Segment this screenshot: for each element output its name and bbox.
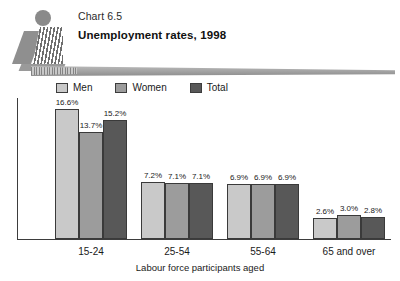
bar-value-total-55-64: 6.9% xyxy=(278,173,296,182)
bar-rect-women xyxy=(165,183,189,239)
chart-legend: Men Women Total xyxy=(56,82,228,93)
logo-head-shape xyxy=(35,10,51,26)
title-block: Chart 6.5 Unemployment rates, 1998 xyxy=(78,10,226,41)
legend-label-women: Women xyxy=(132,82,166,93)
legend-label-men: Men xyxy=(73,82,92,93)
bar-group-15-24: 16.6% 13.7% 15.2% xyxy=(55,98,127,239)
legend-item-women: Women xyxy=(115,82,166,93)
chart-title: Unemployment rates, 1998 xyxy=(78,29,226,41)
bar-rect-total xyxy=(189,183,213,239)
statistics-figure-logo-icon xyxy=(18,10,66,72)
bar-women-25-54[interactable]: 7.1% xyxy=(165,98,189,239)
bar-value-men-55-64: 6.9% xyxy=(230,173,248,182)
legend-swatch-women xyxy=(115,83,127,93)
bar-rect-total xyxy=(103,120,127,239)
bar-value-women-55-64: 6.9% xyxy=(254,173,272,182)
bar-group-55-64: 6.9% 6.9% 6.9% xyxy=(227,98,299,239)
legend-swatch-men xyxy=(56,83,68,93)
chart-number: Chart 6.5 xyxy=(78,10,226,22)
x-axis-label-55-64: 55-64 xyxy=(250,246,276,257)
bar-rect-women xyxy=(79,132,103,239)
bar-rect-men xyxy=(141,182,165,239)
bar-women-15-24[interactable]: 13.7% xyxy=(79,98,103,239)
bar-value-women-65-and-over: 3.0% xyxy=(340,204,358,213)
bar-women-65-and-over[interactable]: 3.0% xyxy=(337,98,361,239)
bar-value-men-15-24: 16.6% xyxy=(56,98,79,107)
bar-rect-total xyxy=(275,184,299,239)
bar-value-total-25-54: 7.1% xyxy=(192,172,210,181)
bar-total-15-24[interactable]: 15.2% xyxy=(103,98,127,239)
x-axis-caption: Labour force participants aged xyxy=(136,262,264,273)
legend-swatch-total xyxy=(190,83,202,93)
bar-total-55-64[interactable]: 6.9% xyxy=(275,98,299,239)
bar-value-women-25-54: 7.1% xyxy=(168,172,186,181)
bar-rect-women xyxy=(337,215,361,239)
bar-men-55-64[interactable]: 6.9% xyxy=(227,98,251,239)
bar-rect-men xyxy=(55,109,79,239)
banner-slab xyxy=(31,66,395,76)
bar-women-55-64[interactable]: 6.9% xyxy=(251,98,275,239)
chart-header: Chart 6.5 Unemployment rates, 1998 xyxy=(0,0,400,78)
x-axis-label-25-54: 25-54 xyxy=(164,246,190,257)
banner-hatch-accent xyxy=(31,67,77,75)
bar-chart-plot-area: 16.6% 13.7% 15.2% 7.2% 7.1% 7.1% 6.9% xyxy=(17,98,391,240)
bar-group-25-54: 7.2% 7.1% 7.1% xyxy=(141,98,213,239)
bar-value-total-65-and-over: 2.8% xyxy=(364,206,382,215)
bar-men-25-54[interactable]: 7.2% xyxy=(141,98,165,239)
bar-value-men-65-and-over: 2.6% xyxy=(316,207,334,216)
bar-value-women-15-24: 13.7% xyxy=(80,121,103,130)
bar-rect-men xyxy=(227,184,251,239)
bar-rect-women xyxy=(251,184,275,239)
bar-value-total-15-24: 15.2% xyxy=(104,109,127,118)
bar-group-65-and-over: 2.6% 3.0% 2.8% xyxy=(313,98,385,239)
logo-body-shape xyxy=(18,27,66,65)
bar-total-65-and-over[interactable]: 2.8% xyxy=(361,98,385,239)
x-axis-label-15-24: 15-24 xyxy=(78,246,104,257)
bar-men-65-and-over[interactable]: 2.6% xyxy=(313,98,337,239)
bar-rect-total xyxy=(361,217,385,239)
x-axis-label-65-and-over: 65 and over xyxy=(323,246,376,257)
header-banner-rule xyxy=(31,66,395,76)
legend-item-men: Men xyxy=(56,82,92,93)
legend-item-total: Total xyxy=(190,82,228,93)
bar-value-men-25-54: 7.2% xyxy=(144,171,162,180)
bar-men-15-24[interactable]: 16.6% xyxy=(55,98,79,239)
x-axis-line xyxy=(17,239,391,240)
bar-total-25-54[interactable]: 7.1% xyxy=(189,98,213,239)
bar-rect-men xyxy=(313,218,337,239)
y-axis-line xyxy=(17,98,18,240)
legend-label-total: Total xyxy=(207,82,228,93)
